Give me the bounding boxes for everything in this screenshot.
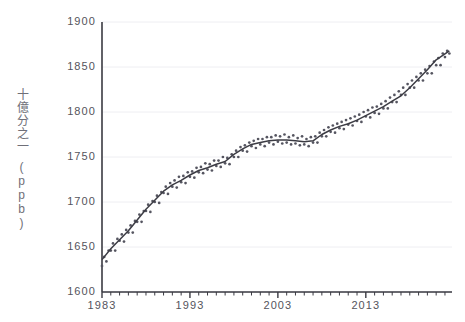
y-axis-label: 十億分之一 (ppb) bbox=[8, 88, 34, 238]
x-axis-ticks bbox=[102, 292, 445, 298]
x-tick-label: 1993 bbox=[162, 299, 218, 311]
x-tick-label: 1983 bbox=[74, 299, 130, 311]
y-axis-label-text: 十億分之一 bbox=[14, 88, 28, 153]
y-tick-label: 1600 bbox=[50, 285, 96, 297]
y-axis-unit-text: (ppb) bbox=[15, 160, 28, 230]
chart-title bbox=[0, 0, 465, 3]
y-tick-label: 1850 bbox=[50, 60, 96, 72]
y-tick-label: 1800 bbox=[50, 105, 96, 117]
methane-trend-chart-figure: 十億分之一 (ppb) 1900185018001750170016501600… bbox=[0, 0, 465, 322]
x-tick-label: 2013 bbox=[338, 299, 394, 311]
y-tick-label: 1750 bbox=[50, 150, 96, 162]
scatter-points bbox=[101, 49, 451, 267]
x-tick-label: 2003 bbox=[250, 299, 306, 311]
trend-line bbox=[102, 51, 449, 260]
grid-lines bbox=[102, 22, 452, 292]
y-tick-label: 1900 bbox=[50, 15, 96, 27]
y-tick-label: 1650 bbox=[50, 240, 96, 252]
y-tick-label: 1700 bbox=[50, 195, 96, 207]
